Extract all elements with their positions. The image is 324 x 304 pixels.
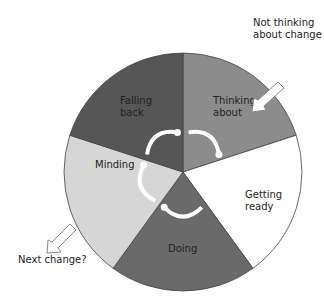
segment-label-minding: Minding (95, 159, 135, 170)
cycle-arrow-head (207, 197, 214, 204)
cycle-arrow-head (140, 162, 147, 169)
segment-label-doing: Doing (168, 243, 197, 254)
cycle-arrow-head (215, 151, 222, 158)
entry-label-1: Not thinking (253, 17, 314, 28)
segment-label-getting-ready: ready (245, 201, 274, 212)
segment-label-thinking: about (213, 107, 242, 118)
entry-label-2: about change (253, 29, 322, 40)
cycle-arrow-head (161, 204, 168, 211)
change-cycle-diagram: ThinkingaboutGettingreadyDoingMindingFal… (0, 0, 324, 304)
exit-label: Next change? (18, 254, 87, 265)
segment-label-falling-back: back (120, 107, 144, 118)
exit-arrow (47, 224, 76, 253)
segment-label-falling-back: Falling (120, 95, 152, 106)
segment-label-getting-ready: Getting (245, 189, 282, 200)
cycle-arrow-head (174, 129, 181, 136)
segment-label-thinking: Thinking (212, 95, 256, 106)
